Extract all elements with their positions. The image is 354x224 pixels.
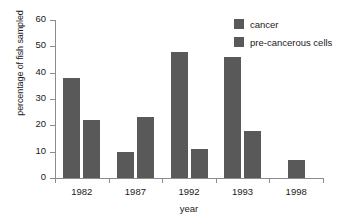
bar [137,117,154,178]
x-axis-tick-label: 1987 [108,186,162,197]
legend-item: pre-cancerous cells [234,35,332,49]
y-axis-tick [50,125,56,126]
bar-chart: percentage of fish sampled 0102030405060… [0,0,354,224]
bar [117,152,134,178]
x-axis-tick [216,178,217,183]
y-axis-tick [50,73,56,74]
x-axis-tick-label: 1993 [216,186,270,197]
x-axis-tick-label: 1982 [55,186,109,197]
y-axis-tick [50,46,56,47]
legend-label: pre-cancerous cells [250,37,332,48]
bar [83,120,100,178]
x-axis-tick [162,178,163,183]
x-axis-line [55,178,323,179]
y-axis-tick-label: 50 [22,40,46,50]
x-axis-tick [323,178,324,183]
legend-label: cancer [250,19,279,30]
bar [288,160,305,178]
y-axis-tick-label: 60 [22,14,46,24]
bar [63,78,80,178]
y-axis-tick [50,99,56,100]
y-axis-tick [50,152,56,153]
y-axis-tick-label: 40 [22,67,46,77]
y-axis-tick-label: 30 [22,93,46,103]
x-axis-tick-label: 1992 [162,186,216,197]
legend-item: cancer [234,17,332,31]
bar [171,52,188,178]
legend-swatch-icon [234,37,244,47]
y-axis-tick-label: 20 [22,119,46,129]
y-axis-tick-label: 10 [22,146,46,156]
x-axis-tick [109,178,110,183]
chart-legend: cancerpre-cancerous cells [234,17,332,53]
x-axis-tick [55,178,56,183]
x-axis-tick [269,178,270,183]
y-axis-tick [50,20,56,21]
bar [191,149,208,178]
x-axis-title: year [55,203,323,214]
y-axis-tick-label: 0 [22,172,46,182]
bar [244,131,261,178]
legend-swatch-icon [234,19,244,29]
x-axis-tick-label: 1998 [269,186,323,197]
bar [224,57,241,178]
